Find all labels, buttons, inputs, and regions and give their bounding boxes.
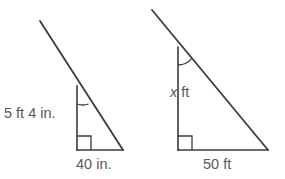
right-triangle-hypotenuse-ray [152, 10, 268, 150]
right-triangle-apex-angle-arc [178, 58, 192, 65]
left-triangle-right-angle-square [77, 136, 91, 150]
right-triangle-vertical-label: x ft [170, 85, 189, 100]
left-triangle-vertical-label: 5 ft 4 in. [4, 106, 56, 121]
right-triangle-base-label: 50 ft [203, 157, 231, 172]
right-triangle-right-angle-square [178, 136, 192, 150]
left-triangle-apex-angle-arc [77, 104, 89, 105]
left-triangle-base-label: 40 in. [76, 157, 111, 172]
triangles-drawing [0, 0, 285, 179]
geometry-figure: 5 ft 4 in. 40 in. x ft 50 ft [0, 0, 285, 179]
right-triangle-group [152, 10, 268, 150]
left-triangle-hypotenuse-ray [40, 21, 123, 150]
left-triangle-group [40, 21, 123, 150]
